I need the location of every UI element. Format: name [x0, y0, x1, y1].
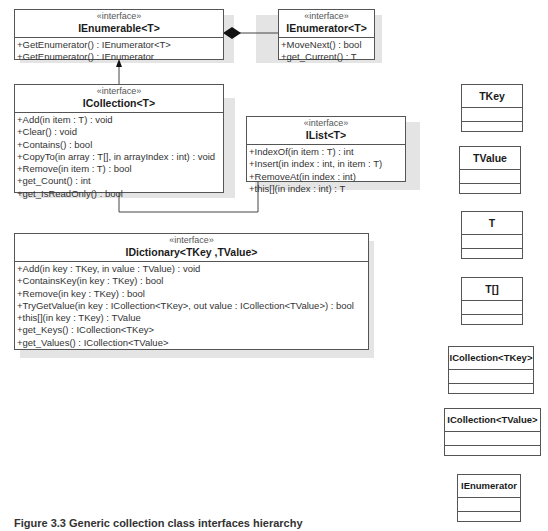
interface-header: «interface» IEnumerator<T>	[279, 10, 374, 38]
operation: +RemoveAt(in index : int)	[249, 171, 403, 183]
class-name: ICollection<TValue>	[445, 409, 540, 432]
interface-ilist[interactable]: «interface» IList<T> +IndexOf(in item : …	[246, 116, 406, 182]
stereotype-label: «interface»	[247, 118, 405, 129]
interface-name: IDictionary<TKey ,TValue>	[15, 246, 368, 259]
operation: +get_Count() : int	[17, 175, 221, 187]
interface-idictionary[interactable]: «interface» IDictionary<TKey ,TValue> +A…	[14, 233, 369, 350]
class-name: T	[462, 212, 522, 235]
operation: +TryGetValue(in key : ICollection<TKey>,…	[17, 300, 366, 312]
attributes-compartment	[445, 432, 540, 446]
operation: +get_Keys() : ICollection<TKey>	[17, 324, 366, 336]
operation: +Clear() : void	[17, 126, 221, 138]
interface-name: IList<T>	[247, 129, 405, 142]
attributes-compartment	[462, 108, 522, 122]
operation: +Insert(in index : int, in item : T)	[249, 158, 403, 170]
operation: +get_Values() : ICollection<TValue>	[17, 337, 366, 349]
class-name: T[]	[462, 278, 522, 301]
class-name: ICollection<TKey>	[449, 347, 533, 370]
operation: +GetEnumerator() : IEnumerator	[17, 51, 221, 63]
operation: +IndexOf(in item : T) : int	[249, 146, 403, 158]
class-name: TKey	[462, 85, 522, 108]
class-tkey[interactable]: TKey	[461, 84, 523, 132]
class-icollection-tvalue[interactable]: ICollection<TValue>	[444, 408, 541, 456]
operations: +Add(in key : TKey, in value : TValue) :…	[15, 262, 368, 351]
operations-compartment	[460, 184, 520, 197]
class-ienumerator[interactable]: IEnumerator	[457, 474, 521, 522]
operations-compartment	[462, 249, 522, 262]
operation: +Contains() : bool	[17, 139, 221, 151]
attributes-compartment	[460, 170, 520, 184]
operation: +Add(in item : T) : void	[17, 114, 221, 126]
operations: +MoveNext() : bool +get_Current() : T	[279, 38, 374, 66]
attributes-compartment	[449, 370, 533, 384]
operation: +Remove(in key : TKey) : bool	[17, 288, 366, 300]
class-t-array[interactable]: T[]	[461, 277, 523, 325]
stereotype-label: «interface»	[15, 235, 368, 246]
interface-name: IEnumerable<T>	[15, 22, 223, 35]
interface-header: «interface» IEnumerable<T>	[15, 10, 223, 38]
attributes-compartment	[462, 235, 522, 249]
interface-ienumerable[interactable]: «interface» IEnumerable<T> +GetEnumerato…	[14, 9, 224, 60]
interface-name: IEnumerator<T>	[279, 22, 374, 35]
attributes-compartment	[462, 301, 522, 315]
operations-compartment	[449, 384, 533, 397]
interface-icollection[interactable]: «interface» ICollection<T> +Add(in item …	[14, 84, 224, 193]
operation: +MoveNext() : bool	[281, 39, 372, 51]
operation: +get_Current() : T	[281, 51, 372, 63]
operation: +this[](in index : int) : T	[249, 183, 403, 195]
interface-header: «interface» IDictionary<TKey ,TValue>	[15, 234, 368, 262]
stereotype-label: «interface»	[15, 11, 223, 22]
operation: +this[](in key : TKey) : TValue	[17, 312, 366, 324]
operation: +get_IsReadOnly() : bool	[17, 188, 221, 200]
figure-caption: Figure 3.3 Generic collection class inte…	[14, 517, 303, 529]
operations-compartment	[462, 315, 522, 328]
interface-header: «interface» ICollection<T>	[15, 85, 223, 113]
operation: +Add(in key : TKey, in value : TValue) :…	[17, 263, 366, 275]
class-icollection-tkey[interactable]: ICollection<TKey>	[448, 346, 534, 394]
stereotype-label: «interface»	[15, 86, 223, 97]
operation: +Remove(in item : T) : bool	[17, 163, 221, 175]
operation: +CopyTo(in array : T[], in arrayIndex : …	[17, 151, 221, 163]
operations: +IndexOf(in item : T) : int +Insert(in i…	[247, 145, 405, 197]
operations-compartment	[445, 446, 540, 459]
interface-name: ICollection<T>	[15, 97, 223, 110]
interface-header: «interface» IList<T>	[247, 117, 405, 145]
class-tvalue[interactable]: TValue	[459, 146, 521, 194]
composition-diamond-icon	[223, 27, 241, 39]
operations: +GetEnumerator() : IEnumerator<T> +GetEn…	[15, 38, 223, 66]
operations-compartment	[462, 122, 522, 135]
attributes-compartment	[458, 498, 520, 512]
interface-ienumerator-t[interactable]: «interface» IEnumerator<T> +MoveNext() :…	[278, 9, 375, 60]
class-t[interactable]: T	[461, 211, 523, 259]
operation: +GetEnumerator() : IEnumerator<T>	[17, 39, 221, 51]
operations-compartment	[458, 512, 520, 525]
operations: +Add(in item : T) : void +Clear() : void…	[15, 113, 223, 202]
class-name: IEnumerator	[458, 475, 520, 498]
class-name: TValue	[460, 147, 520, 170]
stereotype-label: «interface»	[279, 11, 374, 22]
operation: +ContainsKey(in key : TKey) : bool	[17, 275, 366, 287]
